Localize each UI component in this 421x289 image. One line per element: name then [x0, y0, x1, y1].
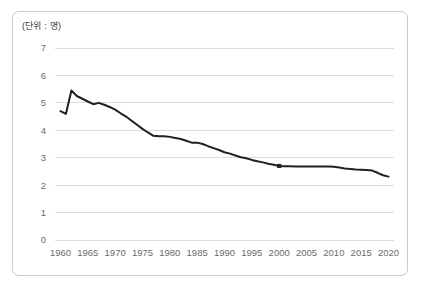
- x-axis-tick-labels: 1960196519701975198019851990199520002005…: [50, 247, 399, 258]
- y-axis-tick-label: 0: [41, 234, 46, 245]
- y-axis-tick-label: 3: [41, 152, 46, 163]
- x-axis-tick-label: 1960: [50, 247, 71, 258]
- line-chart: 01234567 1960196519701975198019851990199…: [13, 12, 407, 275]
- series-line: [60, 91, 388, 177]
- x-axis-tick-label: 2010: [323, 247, 344, 258]
- x-axis-tick-label: 1985: [187, 247, 208, 258]
- x-axis-tick-label: 1975: [132, 247, 153, 258]
- x-axis-tick-label: 2005: [296, 247, 317, 258]
- y-axis-tick-labels: 01234567: [41, 42, 46, 245]
- y-axis-tick-label: 7: [41, 42, 46, 53]
- x-axis-tick-label: 1995: [241, 247, 262, 258]
- data-point-marker: [277, 164, 281, 168]
- chart-card: (단위 : 명) 01234567 1960196519701975198019…: [12, 11, 408, 276]
- data-point-markers: [277, 164, 281, 168]
- gridlines: [55, 48, 394, 240]
- x-axis-tick-label: 1980: [159, 247, 180, 258]
- y-axis-tick-label: 2: [41, 180, 46, 191]
- y-axis-tick-label: 4: [41, 125, 46, 136]
- y-axis-tick-label: 6: [41, 70, 46, 81]
- x-axis-tick-label: 2020: [378, 247, 399, 258]
- x-axis-tick-label: 1990: [214, 247, 235, 258]
- x-axis-tick-label: 1965: [77, 247, 98, 258]
- x-axis-tick-label: 1970: [105, 247, 126, 258]
- x-axis-tick-label: 2015: [351, 247, 372, 258]
- y-axis-tick-label: 1: [41, 207, 46, 218]
- y-axis-tick-label: 5: [41, 97, 46, 108]
- x-axis-tick-label: 2000: [269, 247, 290, 258]
- data-series-group: [60, 91, 388, 177]
